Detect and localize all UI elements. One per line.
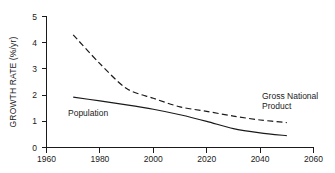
chart-figure: 0 1 2 3 4 5 1960 1980 2000 2020 2040 206…	[0, 0, 335, 173]
y-axis-ticks	[42, 17, 47, 148]
y-tick-label-0: 0	[32, 143, 37, 153]
y-tick-label-2: 2	[32, 90, 37, 100]
x-tick-label-1960: 1960	[37, 154, 56, 164]
series-label-gnp-line1: Gross National	[262, 91, 318, 101]
x-tick-label-1980: 1980	[90, 154, 109, 164]
series-label-gnp-line2: Product	[262, 101, 292, 111]
x-axis-tick-labels: 1960 1980 2000 2020 2040 2060	[37, 154, 323, 164]
chart-canvas: 0 1 2 3 4 5 1960 1980 2000 2020 2040 206…	[0, 0, 335, 173]
y-tick-label-4: 4	[32, 38, 37, 48]
x-tick-label-2020: 2020	[197, 154, 216, 164]
x-tick-label-2040: 2040	[251, 154, 270, 164]
y-axis-title: GROWTH RATE (%/yr)	[8, 37, 18, 128]
y-tick-label-5: 5	[32, 12, 37, 22]
x-tick-label-2060: 2060	[304, 154, 323, 164]
y-tick-label-1: 1	[32, 116, 37, 126]
y-tick-label-3: 3	[32, 64, 37, 74]
y-axis-tick-labels: 0 1 2 3 4 5	[32, 12, 37, 153]
series-label-population: Population	[68, 108, 108, 118]
x-tick-label-2000: 2000	[144, 154, 163, 164]
x-axis-ticks	[47, 148, 314, 153]
